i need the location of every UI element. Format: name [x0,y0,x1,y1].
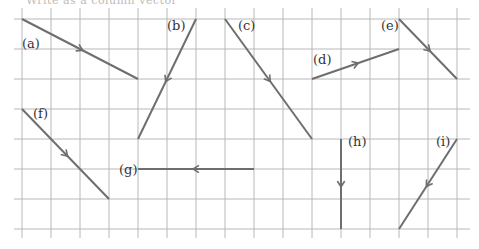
vector-label: (h) [348,134,367,149]
vector-label: (a) [22,36,40,51]
vector-label: (e) [381,18,399,33]
vector-d: (d) [312,49,399,79]
vector-g: (g) [119,162,254,177]
vectors-group: (a)(b)(c)(d)(e)(f)(g)(h)(i) [22,18,457,229]
vector-label: (b) [167,18,185,33]
vector-label: (c) [238,18,255,33]
vector-f: (f) [22,106,109,199]
vector-grid-diagram: (a)(b)(c)(d)(e)(f)(g)(h)(i) [0,0,479,249]
vector-label: (d) [313,52,331,67]
vector-label: (i) [436,134,450,149]
vector-line [22,109,109,199]
vector-label: (f) [33,106,48,121]
vector-label: (g) [119,162,137,177]
vector-h: (h) [337,134,366,229]
